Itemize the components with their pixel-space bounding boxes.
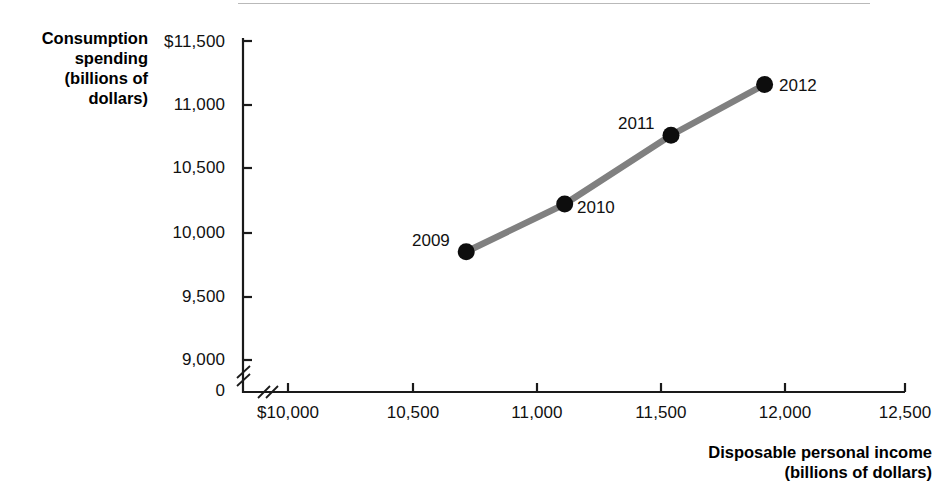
plot-area	[0, 0, 940, 490]
data-point-2011	[663, 127, 680, 144]
series-line-consumption	[466, 85, 764, 252]
axis-lines	[243, 38, 905, 392]
chart-figure: Consumption spending (billions of dollar…	[0, 0, 940, 490]
data-point-2010	[556, 196, 573, 213]
data-point-2009	[458, 243, 475, 260]
data-point-2012	[756, 76, 773, 93]
